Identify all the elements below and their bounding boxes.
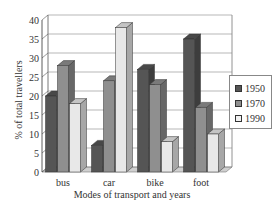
y-axis-title: % of total travellers [13,60,24,139]
x-category-bus: bus [56,177,70,188]
legend-label: 1970 [245,98,265,109]
x-axis-categories: buscarbikefoot [56,177,209,188]
legend-item-1950: 1950 [235,82,265,94]
y-tick-label: 15 [29,110,39,121]
y-tick-label: 25 [29,72,39,83]
legend-label: 1990 [245,113,265,124]
bar-bike-1990 [162,137,179,172]
legend-label: 1950 [245,83,265,94]
x-category-car: car [103,177,116,188]
y-axis-ticks: 0510152025303540 [29,15,39,178]
bars [46,23,225,172]
y-tick-label: 0 [34,167,39,178]
y-tick-label: 10 [29,129,39,140]
y-tick-label: 20 [29,91,39,102]
legend-swatch-icon [235,100,242,107]
x-category-bike: bike [146,177,164,188]
legend-swatch-icon [235,115,242,122]
y-tick-label: 30 [29,53,39,64]
bar-car-1990 [116,23,133,172]
x-axis-title: Modes of transport and years [74,189,191,200]
legend-item-1970: 1970 [235,97,265,109]
y-tick-label: 5 [34,148,39,159]
legend-item-1990: 1990 [235,112,265,124]
legend-swatch-icon [235,85,242,92]
y-tick-label: 40 [29,15,39,26]
legend: 1950 1970 1990 [229,75,272,129]
bar-foot-1990 [208,129,225,172]
x-category-foot: foot [193,177,209,188]
bar-bus-1990 [70,99,87,172]
y-tick-label: 35 [29,34,39,45]
